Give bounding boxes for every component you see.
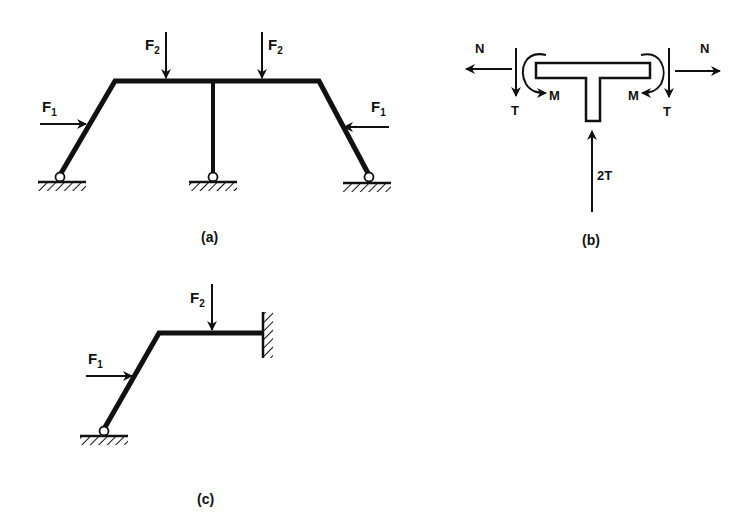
caption-c: (c) bbox=[197, 491, 214, 507]
svg-text:N: N bbox=[700, 41, 709, 56]
load-f2-right: F2 bbox=[262, 32, 283, 78]
svg-text:F1: F1 bbox=[371, 98, 386, 118]
panel-b: N T M N T M 2T (b) bbox=[466, 41, 720, 248]
load-f1-left: F1 bbox=[40, 98, 86, 124]
pin-support-right bbox=[343, 173, 391, 193]
svg-text:F2: F2 bbox=[190, 289, 205, 309]
caption-b: (b) bbox=[582, 232, 600, 248]
svg-text:F1: F1 bbox=[42, 98, 57, 118]
pin-support-center bbox=[189, 173, 237, 192]
force-n-right: N bbox=[675, 41, 720, 71]
panel-a: F2 F2 F1 F1 (a) bbox=[38, 32, 391, 245]
caption-a: (a) bbox=[201, 229, 218, 245]
pin-support-c bbox=[80, 427, 128, 446]
pin-support-left bbox=[38, 173, 86, 192]
load-f2-c: F2 bbox=[190, 284, 212, 330]
force-n-left: N bbox=[466, 41, 512, 69]
svg-text:T: T bbox=[663, 104, 671, 119]
load-f1-right: F1 bbox=[344, 98, 389, 127]
fixed-wall-support bbox=[263, 312, 273, 358]
force-2t: 2T bbox=[592, 131, 612, 212]
svg-text:M: M bbox=[628, 88, 639, 103]
svg-text:N: N bbox=[475, 41, 484, 56]
force-t-right: T bbox=[663, 48, 671, 119]
svg-text:F2: F2 bbox=[145, 36, 160, 56]
structural-diagram: F2 F2 F1 F1 (a) N T M bbox=[0, 0, 745, 524]
svg-text:T: T bbox=[511, 103, 519, 118]
panel-c: F2 F1 (c) bbox=[80, 284, 273, 507]
load-f1-c: F1 bbox=[86, 350, 132, 376]
frame-c-members bbox=[104, 333, 262, 429]
svg-text:M: M bbox=[549, 88, 560, 103]
svg-text:F1: F1 bbox=[88, 350, 103, 370]
load-f2-left: F2 bbox=[145, 32, 166, 78]
svg-text:F2: F2 bbox=[268, 36, 283, 56]
force-t-left: T bbox=[511, 48, 519, 118]
svg-text:2T: 2T bbox=[597, 168, 612, 183]
